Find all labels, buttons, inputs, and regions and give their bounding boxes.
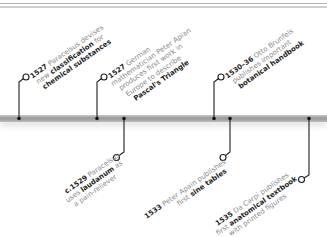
marker-circle-1527a: [23, 74, 29, 80]
connector-1527b: [97, 79, 102, 119]
timeline-dot-1530: [212, 117, 216, 121]
timeline-dot-1533: [228, 117, 232, 121]
connector-1530: [214, 79, 219, 119]
marker-circle-1530: [218, 74, 224, 80]
timeline-graphic: 1527 Paracelsus devises new classificati…: [0, 0, 327, 237]
connector-1527a: [19, 79, 24, 119]
timeline-dot-1527a: [17, 117, 21, 121]
timeline-dot-1535: [307, 117, 311, 121]
connector-1533: [226, 118, 231, 156]
timeline-dot-1527b: [95, 117, 99, 121]
marker-circle-1527b: [101, 74, 107, 80]
connector-1535: [304, 118, 309, 178]
connector-1529: [119, 118, 124, 156]
timeline-dot-1529: [122, 117, 126, 121]
